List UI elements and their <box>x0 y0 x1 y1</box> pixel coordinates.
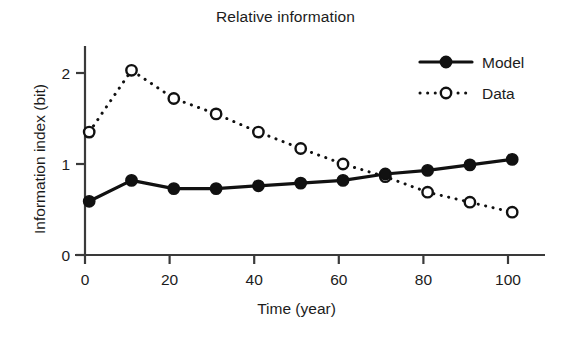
data-point-data <box>211 109 221 119</box>
chart-legend: ModelData <box>420 54 524 102</box>
y-tick-label: 0 <box>61 247 70 264</box>
data-point-model <box>380 168 391 179</box>
y-axis-ticks: 012 <box>61 65 85 264</box>
data-point-data <box>422 187 432 197</box>
x-tick-label: 60 <box>330 271 348 288</box>
axes <box>75 46 545 255</box>
data-point-data <box>84 127 94 137</box>
data-point-model <box>168 183 179 194</box>
legend-marker-model <box>440 56 451 67</box>
x-tick-label: 20 <box>161 271 179 288</box>
data-point-model <box>422 165 433 176</box>
data-point-data <box>126 65 136 75</box>
data-series <box>84 65 518 217</box>
data-point-model <box>126 175 137 186</box>
data-point-data <box>507 207 517 217</box>
data-point-data <box>253 127 263 137</box>
data-point-model <box>253 180 264 191</box>
chart-figure: Relative information Information index (… <box>0 0 571 340</box>
data-point-model <box>464 159 475 170</box>
legend-label-data: Data <box>482 85 515 102</box>
y-tick-label: 1 <box>61 156 70 173</box>
x-axis-ticks: 020406080100 <box>81 255 522 288</box>
x-tick-label: 0 <box>81 271 90 288</box>
data-point-data <box>338 159 348 169</box>
plot-area: 020406080100 012 ModelData <box>0 0 571 340</box>
data-point-model <box>295 178 306 189</box>
data-point-data <box>296 143 306 153</box>
legend-marker-data <box>441 88 451 98</box>
data-point-data <box>169 93 179 103</box>
y-tick-label: 2 <box>61 65 70 82</box>
x-tick-label: 40 <box>246 271 264 288</box>
data-point-data <box>465 197 475 207</box>
data-point-model <box>211 183 222 194</box>
data-point-model <box>337 175 348 186</box>
legend-label-model: Model <box>482 54 524 71</box>
data-point-model <box>84 196 95 207</box>
x-tick-label: 80 <box>415 271 433 288</box>
data-point-model <box>507 154 518 165</box>
x-tick-label: 100 <box>495 271 521 288</box>
